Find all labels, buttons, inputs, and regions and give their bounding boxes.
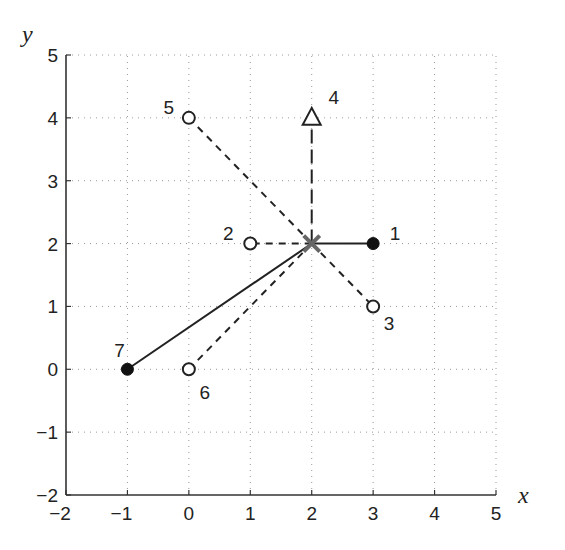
- point-label-1: 1: [390, 223, 401, 244]
- x-tick-label: 3: [368, 503, 379, 524]
- y-tick-label: 1: [47, 296, 58, 317]
- y-tick-label: −1: [36, 422, 58, 443]
- point-label-5: 5: [164, 97, 175, 118]
- point-marker-7: [121, 363, 133, 375]
- point-marker-1: [367, 238, 379, 250]
- x-tick-label: 2: [306, 503, 317, 524]
- point-label-2: 2: [223, 223, 234, 244]
- point-marker-6: [183, 363, 195, 375]
- point-label-4: 4: [328, 87, 339, 108]
- x-axis-label: x: [517, 482, 529, 508]
- connector-line-7: [127, 244, 311, 370]
- x-tick-label: 5: [491, 503, 502, 524]
- point-marker-2: [244, 238, 256, 250]
- point-label-3: 3: [384, 313, 395, 334]
- y-tick-label: 5: [47, 45, 58, 66]
- scatter-chart: −2−1012345543210−1−2xy1234567: [0, 0, 565, 550]
- x-tick-label: −1: [111, 503, 133, 524]
- point-label-7: 7: [114, 340, 125, 361]
- point-marker-3: [367, 300, 379, 312]
- x-tick-label: 1: [245, 503, 256, 524]
- x-tick-label: 4: [429, 503, 440, 524]
- y-axis-label: y: [20, 21, 33, 47]
- y-tick-label: 3: [47, 171, 58, 192]
- connector-line-3: [312, 244, 373, 307]
- y-tick-label: −2: [36, 485, 58, 506]
- x-tick-label: 0: [184, 503, 195, 524]
- x-tick-label: −2: [49, 503, 71, 524]
- point-marker-5: [183, 112, 195, 124]
- y-tick-label: 0: [47, 359, 58, 380]
- point-label-6: 6: [200, 382, 211, 403]
- point-marker-4: [303, 108, 321, 125]
- y-tick-label: 4: [47, 108, 58, 129]
- y-tick-label: 2: [47, 234, 58, 255]
